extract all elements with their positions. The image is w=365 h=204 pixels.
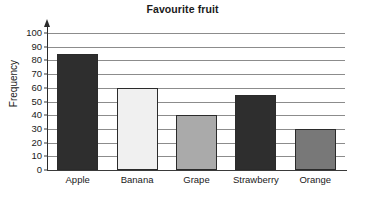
y-axis-tick-label: 20 (31, 138, 42, 148)
y-axis-tick-label: 30 (31, 124, 42, 134)
y-axis-tick-label: 90 (31, 42, 42, 52)
bar (295, 129, 336, 170)
y-axis-tick-label: 40 (31, 110, 42, 120)
gridline (48, 47, 345, 48)
bar (235, 95, 276, 170)
y-axis-tick-mark (44, 60, 48, 61)
y-axis-tick-label: 60 (31, 83, 42, 93)
plot-area: 0102030405060708090100 (48, 33, 345, 170)
x-axis-tick-label: Banana (107, 174, 166, 185)
y-axis-tick-label: 80 (31, 56, 42, 66)
x-axis-tick-label: Orange (286, 174, 345, 185)
y-axis-tick-label: 0 (37, 165, 42, 175)
x-axis-tick-label: Strawberry (226, 174, 285, 185)
y-axis-tick-mark (44, 101, 48, 102)
y-axis-tick-label: 100 (26, 28, 42, 38)
y-axis-arrow-icon (44, 19, 50, 27)
y-axis-tick-label: 70 (31, 69, 42, 79)
gridline (48, 33, 345, 34)
y-axis-tick-mark (44, 46, 48, 47)
y-axis-tick-mark (44, 74, 48, 75)
bar-chart: Favourite fruit Frequency 01020304050607… (0, 0, 365, 204)
y-axis-tick-mark (44, 87, 48, 88)
bar (117, 88, 158, 170)
x-axis-tick-label: Apple (48, 174, 107, 185)
bar (57, 54, 98, 170)
gridline (48, 170, 345, 171)
y-axis-tick-label: 10 (31, 152, 42, 162)
chart-title: Favourite fruit (0, 3, 365, 15)
y-axis-label: Frequency (8, 44, 19, 124)
y-axis-tick-mark (44, 128, 48, 129)
y-axis-tick-mark (44, 170, 48, 171)
y-axis-tick-label: 50 (31, 97, 42, 107)
y-axis-tick-mark (44, 33, 48, 34)
bar (176, 115, 217, 170)
y-axis-tick-mark (44, 142, 48, 143)
y-axis-tick-mark (44, 115, 48, 116)
x-axis-tick-label: Grape (167, 174, 226, 185)
y-axis-tick-mark (44, 156, 48, 157)
